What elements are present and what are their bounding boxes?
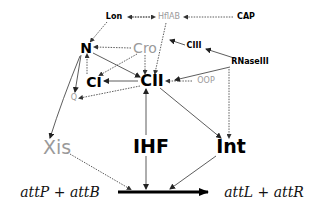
node-rnaseiii: RNaseIII	[231, 58, 268, 66]
node-n: N	[80, 41, 92, 55]
reaction-right: attL + attR	[224, 185, 304, 199]
node-ciii: CIII	[187, 42, 202, 50]
lambda-regulatory-diagram: Lon HflAB CAP N Cro CIII RNaseIII CI CII…	[0, 0, 313, 206]
edge-cro-n	[95, 47, 131, 48]
edge-int-reaction	[170, 156, 216, 189]
node-ci: CI	[86, 75, 101, 89]
node-ihf: IHF	[133, 137, 169, 156]
edges-layer	[0, 0, 313, 206]
node-q: Q	[71, 94, 77, 102]
node-cap: CAP	[237, 13, 255, 21]
node-cro: Cro	[133, 41, 157, 55]
edge-cii-int	[160, 88, 221, 138]
edge-lon-n	[91, 22, 107, 41]
edge-ciii-hflab	[170, 40, 185, 45]
node-int: Int	[216, 137, 246, 156]
reaction-left: attP + attB	[20, 185, 100, 199]
node-lon: Lon	[106, 13, 122, 21]
node-hflab: HflAB	[158, 13, 180, 21]
node-xis: Xis	[43, 138, 71, 157]
node-cii: CII	[140, 73, 164, 89]
edge-rnaseiii-ciii	[206, 49, 234, 58]
node-oop: OOP	[197, 77, 214, 85]
edge-cro-ci	[100, 54, 137, 75]
